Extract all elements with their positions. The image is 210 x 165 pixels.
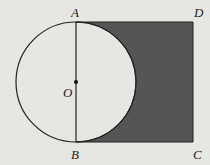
shaded-region: [76, 22, 193, 142]
label-c: C: [193, 147, 202, 162]
label-o: O: [63, 85, 73, 100]
label-d: D: [193, 5, 204, 20]
center-point-o: [74, 80, 78, 84]
geometry-figure: A D O B C: [0, 0, 210, 165]
label-b: B: [71, 147, 79, 162]
label-a: A: [70, 5, 79, 20]
